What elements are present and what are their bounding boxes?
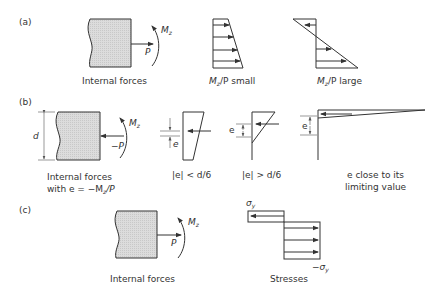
moment-arrow xyxy=(152,26,159,66)
ecc-symbol: e xyxy=(302,121,308,131)
panel-c-label: (c) xyxy=(19,205,31,215)
caption-internal-forces: Internal forces xyxy=(110,274,175,284)
stress-block-small-eccentricity xyxy=(160,112,211,160)
moment-symbol: Mz xyxy=(161,25,173,36)
moment-symbol: Mz xyxy=(129,118,141,129)
caption-mz-p-small: Mz/P small xyxy=(209,76,255,87)
caption-case-3-line2: limiting value xyxy=(345,182,407,192)
stress-block-yield xyxy=(248,211,320,259)
force-symbol: −P xyxy=(111,141,125,151)
panel-c: (c) P Mz Internal forces σy −σy Stresses xyxy=(19,198,329,284)
force-symbol: P xyxy=(171,238,177,248)
panel-b: (b) d −P Mz Internal forces with e = −Mz… xyxy=(19,97,425,195)
caption-internal-forces: Internal forces xyxy=(82,76,147,86)
stress-block-large-eccentricity xyxy=(236,112,279,160)
sigma-y-bottom: −σy xyxy=(312,262,329,274)
stress-block-limiting-eccentricity xyxy=(300,110,425,160)
moment-symbol: Mz xyxy=(188,217,200,228)
ecc-symbol: e xyxy=(173,139,179,149)
force-symbol: P xyxy=(145,47,151,57)
panel-a: (a) P Mz Internal forces Mz/P small xyxy=(19,17,363,87)
sigma-y-top: σy xyxy=(246,198,256,210)
stress-block-large xyxy=(293,19,358,68)
stress-block-small xyxy=(213,19,243,68)
panel-a-label: (a) xyxy=(19,17,32,27)
caption-mz-p-large: Mz/P large xyxy=(317,76,363,87)
moment-arrow xyxy=(120,118,127,158)
section-body xyxy=(56,112,100,160)
section-body xyxy=(115,211,157,258)
moment-arrow xyxy=(178,218,185,258)
caption-case-1: |e| < d/6 xyxy=(172,170,212,180)
caption-internal-forces: Internal forces xyxy=(47,172,112,182)
caption-case-3-line1: e close to its xyxy=(347,170,404,180)
section-body xyxy=(88,19,131,67)
stress-distribution-diagram: (a) P Mz Internal forces Mz/P small xyxy=(0,0,446,293)
caption-eccentricity: with e = −Mz/P xyxy=(47,184,115,195)
ecc-symbol: e xyxy=(229,125,235,135)
caption-case-2: |e| > d/6 xyxy=(242,170,282,180)
panel-b-label: (b) xyxy=(19,97,32,107)
caption-stresses: Stresses xyxy=(270,274,308,284)
depth-symbol: d xyxy=(33,131,39,141)
